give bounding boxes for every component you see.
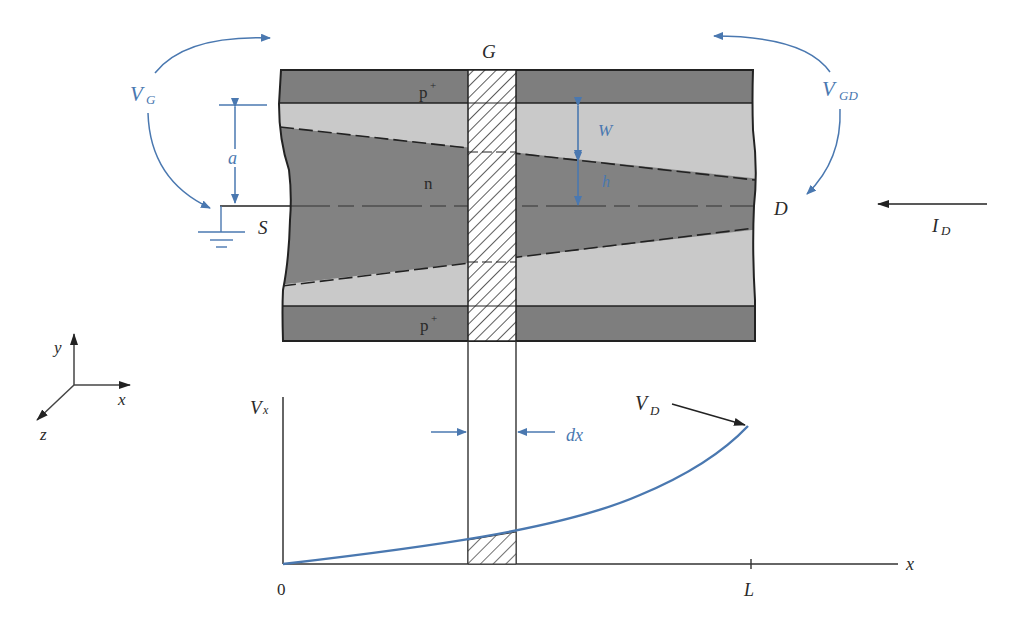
potential-plot: V x x 0 L V D dx: [250, 392, 914, 600]
n-channel-label: n: [424, 174, 433, 193]
drain-current-arrow: I D: [878, 204, 987, 238]
svg-text:0: 0: [277, 580, 286, 599]
svg-text:V: V: [250, 397, 264, 418]
svg-text:V: V: [635, 392, 650, 414]
svg-text:W: W: [598, 121, 614, 140]
svg-text:I: I: [931, 215, 940, 236]
svg-text:x: x: [905, 554, 914, 574]
svg-text:+: +: [430, 79, 436, 91]
svg-text:h: h: [602, 173, 610, 190]
dx-dimension: dx: [431, 425, 583, 445]
gate-voltage-arrow: V G: [130, 38, 270, 208]
bottom-p-plus-region: [270, 306, 770, 351]
drain-voltage-annotation: V D: [635, 392, 745, 425]
svg-text:y: y: [52, 338, 62, 357]
source-terminal: S: [220, 206, 290, 238]
svg-text:L: L: [743, 580, 754, 600]
svg-text:a: a: [228, 148, 237, 168]
svg-text:p: p: [420, 316, 429, 335]
svg-text:+: +: [431, 312, 437, 324]
jfet-device: [270, 60, 770, 351]
svg-text:dx: dx: [566, 425, 583, 445]
svg-text:x: x: [117, 390, 126, 409]
svg-text:V: V: [822, 77, 837, 101]
drain-label: D: [773, 198, 788, 219]
ground-icon: [198, 232, 245, 247]
svg-text:GD: GD: [839, 88, 858, 103]
svg-text:D: D: [940, 223, 951, 238]
gate-label: G: [482, 41, 496, 62]
svg-text:x: x: [262, 403, 269, 417]
svg-text:D: D: [649, 403, 660, 418]
svg-text:V: V: [130, 82, 145, 106]
dimension-a: a: [219, 105, 267, 203]
coordinate-axes-icon: y x z: [37, 334, 130, 444]
svg-text:S: S: [258, 217, 268, 238]
svg-text:G: G: [146, 92, 156, 107]
gate-slice: [468, 70, 516, 341]
jfet-diagram: G p + n p + W h a S V G: [0, 0, 1015, 622]
top-p-plus-region: [270, 60, 770, 103]
svg-text:p: p: [419, 83, 428, 102]
svg-text:z: z: [39, 425, 47, 444]
